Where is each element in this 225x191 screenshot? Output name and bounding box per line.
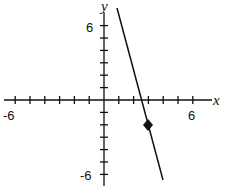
graph-line xyxy=(117,8,163,180)
x-max-label: 6 xyxy=(188,108,195,123)
coordinate-plane xyxy=(0,0,225,191)
y-min-label: -6 xyxy=(80,168,92,183)
x-axis-label: x xyxy=(213,92,220,109)
y-max-label: 6 xyxy=(86,20,93,35)
y-axis-label: y xyxy=(101,0,108,15)
x-min-label: -6 xyxy=(3,108,15,123)
y-axis xyxy=(100,12,108,186)
x-axis xyxy=(4,96,212,104)
point-marker xyxy=(143,119,153,131)
